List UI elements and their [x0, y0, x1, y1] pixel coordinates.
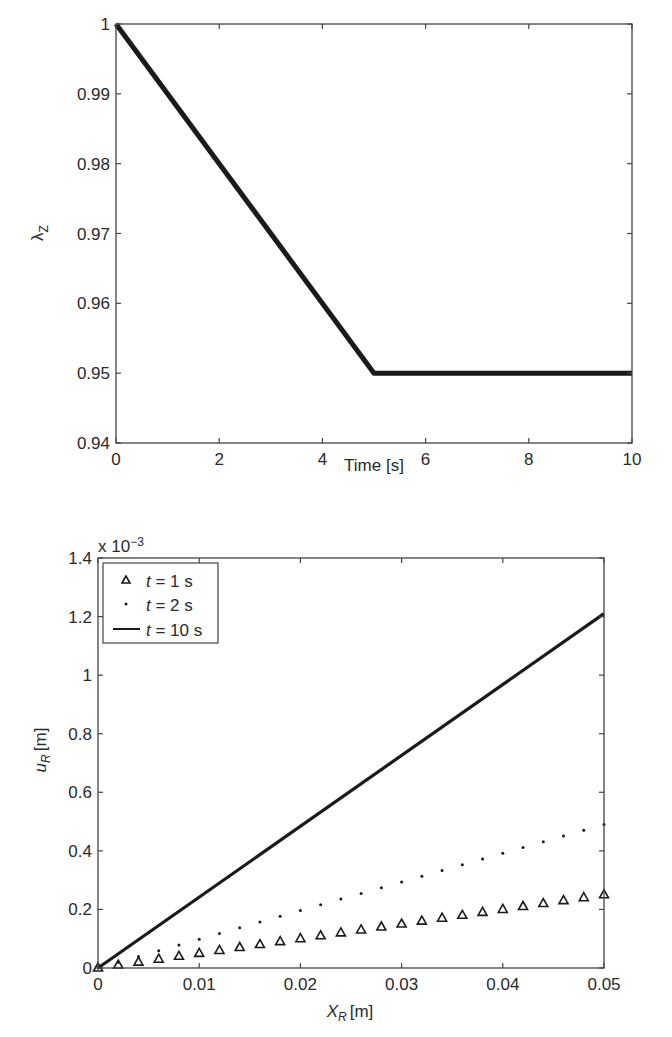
triangle-marker [417, 916, 426, 924]
triangle-marker [357, 925, 366, 933]
y-axis-label: λZ [28, 225, 51, 241]
dot-marker [522, 846, 525, 849]
plot-frame [116, 24, 632, 443]
figure: 0246810 0.940.950.960.970.980.991 Time [… [0, 0, 672, 1037]
dot-marker [258, 921, 261, 924]
y-tick-label: 0.94 [77, 434, 110, 453]
triangle-marker [195, 948, 204, 956]
y-multiplier-label: x 10−3 [98, 535, 144, 556]
legend: t = 1 s t = 2 s t = 10 s [103, 563, 218, 643]
y-tick-label: 1 [83, 666, 92, 685]
y-tick-label: 1.2 [68, 608, 92, 627]
ur-vs-xr-chart: 00.010.020.030.040.05 00.20.40.60.811.21… [31, 535, 621, 1024]
dot-marker [218, 932, 221, 935]
x-tick-label: 2 [214, 450, 223, 469]
ur-series [94, 614, 609, 971]
svg-text:t = 1 s: t = 1 s [146, 572, 193, 591]
dot-marker [380, 886, 383, 889]
x-axis-label: XR[m] [326, 1002, 374, 1024]
triangle-marker [255, 940, 264, 948]
triangle-marker [154, 954, 163, 962]
y-tick-label: 0.6 [68, 783, 92, 802]
dot-marker-icon [125, 603, 128, 606]
dot-marker [542, 840, 545, 843]
y-tick-label: 0.2 [68, 900, 92, 919]
dot-marker [177, 944, 180, 947]
x-tick-label: 0.05 [587, 975, 620, 994]
dot-marker [360, 892, 363, 895]
y-axis-label: uR[m] [31, 728, 53, 773]
dot-marker [157, 949, 160, 952]
triangle-marker [498, 904, 507, 912]
svg-text:t = 2 s: t = 2 s [146, 596, 193, 615]
y-tick-label: 1.4 [68, 549, 92, 568]
triangle-marker [336, 928, 345, 936]
y-tick-label: 0.97 [77, 225, 110, 244]
svg-text:t = 10 s: t = 10 s [146, 621, 202, 640]
x-tick-label: 10 [623, 450, 642, 469]
dot-marker [238, 926, 241, 929]
dot-marker [441, 869, 444, 872]
dot-marker [501, 852, 504, 855]
triangle-marker [377, 922, 386, 930]
triangle-marker [215, 945, 224, 953]
triangle-marker [539, 899, 548, 907]
dot-marker [339, 898, 342, 901]
y-tick-label: 0.98 [77, 155, 110, 174]
x-tick-label: 0 [111, 450, 120, 469]
lambda-z-vs-time-chart: 0246810 0.940.950.960.970.980.991 Time [… [28, 15, 641, 475]
triangle-marker [519, 902, 528, 910]
dot-marker [461, 863, 464, 866]
triangle-marker [397, 919, 406, 927]
y-tick-label: 0 [83, 959, 92, 978]
dot-marker [582, 829, 585, 832]
x-tick-label: 4 [318, 450, 327, 469]
x-tick-label: 0 [93, 975, 102, 994]
triangle-marker [458, 910, 467, 918]
triangle-marker [478, 907, 487, 915]
triangle-marker [559, 896, 568, 904]
y-tick-label: 0.99 [77, 85, 110, 104]
dot-marker [279, 915, 282, 918]
triangle-marker [276, 937, 285, 945]
x-tick-label: 8 [524, 450, 533, 469]
y-tick-label: 0.96 [77, 294, 110, 313]
triangle-marker [438, 913, 447, 921]
triangle-marker [174, 951, 183, 959]
dot-marker [299, 909, 302, 912]
triangle-marker [296, 934, 305, 942]
lambda-z-series [116, 24, 632, 373]
y-tick-label: 0.95 [77, 364, 110, 383]
series-line [116, 24, 632, 373]
x-tick-label: 0.02 [284, 975, 317, 994]
y-tick-label: 0.8 [68, 725, 92, 744]
x-tick-label: 0.04 [486, 975, 519, 994]
x-tick-label: 6 [421, 450, 430, 469]
dot-marker [400, 880, 403, 883]
dot-marker [420, 875, 423, 878]
dot-marker [562, 834, 565, 837]
y-tick-label: 1 [101, 15, 110, 34]
dot-marker [319, 903, 322, 906]
dot-marker [137, 955, 140, 958]
triangle-marker [235, 943, 244, 951]
series-line-t10 [98, 614, 604, 968]
y-tick-label: 0.4 [68, 842, 92, 861]
dot-marker [481, 857, 484, 860]
triangle-marker [134, 957, 143, 965]
dot-marker [198, 938, 201, 941]
triangle-marker [579, 893, 588, 901]
triangle-marker [316, 931, 325, 939]
x-tick-label: 0.03 [385, 975, 418, 994]
x-axis-ticks: 0246810 [111, 24, 641, 469]
x-tick-label: 0.01 [183, 975, 216, 994]
dot-marker [117, 961, 120, 964]
x-axis-label: Time [s] [344, 456, 404, 475]
